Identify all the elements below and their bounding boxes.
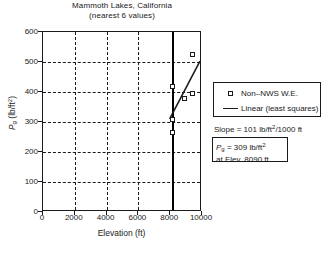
pg-value-text: = 309 lb/ft	[225, 143, 263, 152]
legend-label-linear-fit: Linear (least squares)	[241, 104, 318, 113]
y-axis-units: (lb/ft	[7, 102, 17, 121]
legend-entry-linear-fit: Linear (least squares)	[219, 101, 318, 115]
slope-annotation: Slope = 101 lb/ft2/1000 ft	[214, 124, 302, 134]
x-axis-title: Elevation (ft)	[42, 228, 201, 238]
x-tick-label-0: 0	[25, 213, 59, 222]
slope-suffix: /1000 ft	[275, 125, 302, 134]
y-axis-title: Pg (lb/ft2)	[7, 73, 17, 153]
y-axis-symbol: P	[7, 124, 17, 130]
chart-legend: Non–NWS W.E. Linear (least squares)	[213, 82, 321, 117]
x-tick-label-10000: 10000	[184, 213, 218, 222]
plot-area	[42, 31, 201, 211]
open-square-marker-icon	[219, 91, 241, 96]
data-point	[170, 117, 175, 122]
legend-label-non-nws: Non–NWS W.E.	[241, 89, 298, 98]
plot-inner	[43, 32, 200, 210]
chart-title: Mammoth Lakes, California (nearest 6 val…	[42, 1, 202, 21]
y-axis-close-paren: )	[7, 96, 17, 99]
data-point	[190, 91, 195, 96]
pg-value-annotation: Pg = 309 lb/ft2 at Elev. 8090 ft	[212, 137, 288, 162]
chart-title-sub: (nearest 6 values)	[42, 11, 202, 21]
least-squares-fit-line	[43, 32, 200, 210]
data-point	[190, 52, 195, 57]
chart-title-main: Mammoth Lakes, California	[42, 1, 202, 11]
y-axis-subscript: g	[11, 121, 17, 124]
legend-entry-non-nws: Non–NWS W.E.	[219, 86, 298, 100]
x-tick-label-8000: 8000	[152, 213, 186, 222]
solid-line-icon	[219, 108, 241, 109]
x-tick-label-2000: 2000	[57, 213, 91, 222]
data-point	[170, 84, 175, 89]
data-point	[182, 96, 187, 101]
y-tick-label-100: 100	[12, 177, 38, 186]
x-tick-label-4000: 4000	[89, 213, 123, 222]
data-point	[170, 130, 175, 135]
y-axis-superscript: 2	[7, 99, 13, 102]
pg-value-line-1: Pg = 309 lb/ft2	[216, 140, 287, 155]
chart-figure: Mammoth Lakes, California (nearest 6 val…	[0, 0, 328, 254]
slope-prefix: Slope = 101 lb/ft	[214, 125, 272, 134]
y-tick-label-600: 600	[12, 27, 38, 36]
pg-value-line-2: at Elev. 8090 ft	[216, 155, 287, 166]
x-tick-label-6000: 6000	[120, 213, 154, 222]
y-tick-label-500: 500	[12, 57, 38, 66]
pg-superscript: 2	[262, 142, 265, 148]
